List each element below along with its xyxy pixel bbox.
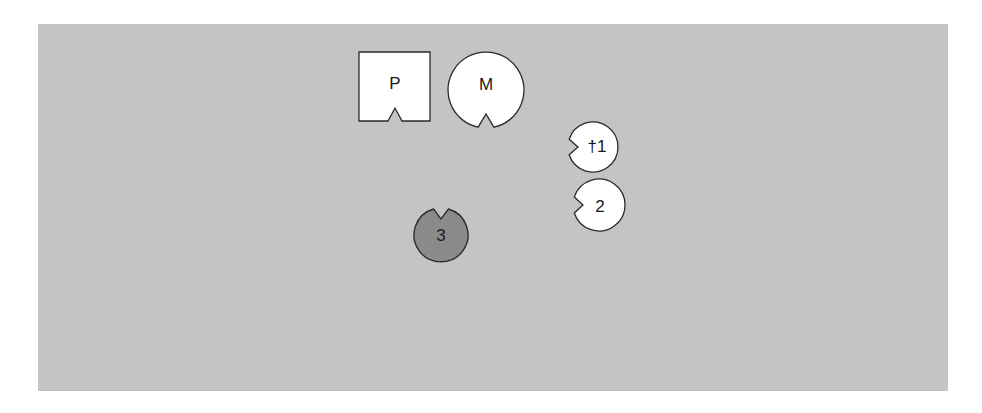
diagram-canvas: P M †1 2 3 — [0, 0, 982, 413]
shape-2: 2 — [574, 179, 625, 231]
shape-2-label: 2 — [595, 197, 604, 216]
shape-1: †1 — [569, 122, 618, 172]
shape-m-label: M — [479, 75, 493, 94]
shape-m: M — [448, 52, 524, 127]
shape-p-label: P — [389, 74, 400, 93]
shape-p: P — [359, 52, 430, 121]
shape-1-label: †1 — [588, 137, 607, 156]
shape-3: 3 — [414, 209, 468, 262]
shape-3-label: 3 — [436, 226, 445, 245]
